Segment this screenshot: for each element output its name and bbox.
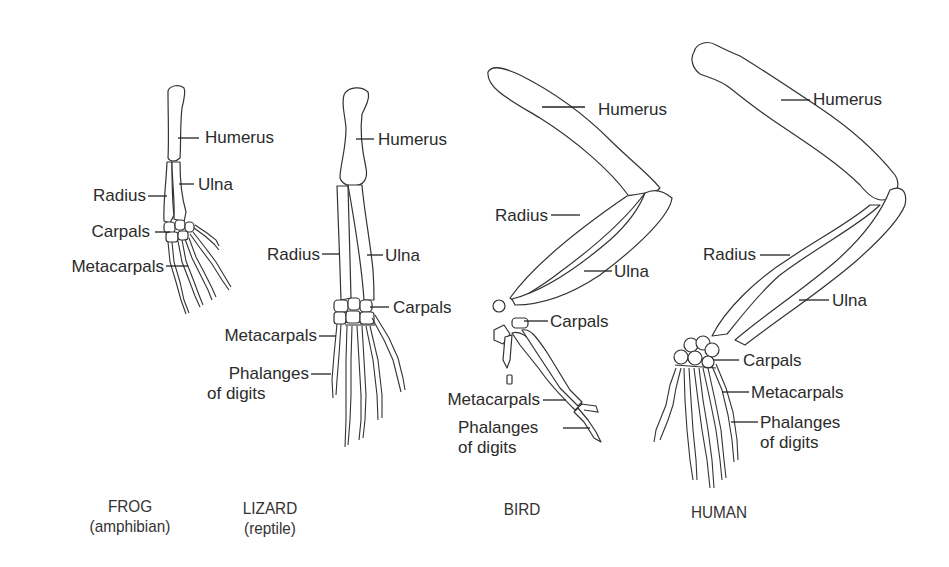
human-label-ulna: Ulna bbox=[832, 291, 867, 310]
bird-label-metacarpals: Metacarpals bbox=[410, 390, 540, 409]
lizard-label-carpals: Carpals bbox=[393, 298, 452, 317]
lizard-label-of-digits: of digits bbox=[207, 384, 266, 403]
frog-forelimb bbox=[148, 86, 231, 314]
human-label-carpals: Carpals bbox=[743, 351, 802, 370]
lizard-label-humerus: Humerus bbox=[378, 130, 447, 149]
caption-lizard-group: (reptile) bbox=[207, 519, 333, 539]
bird-humerus-bone bbox=[488, 68, 660, 196]
lizard-ulna-bone bbox=[348, 185, 374, 300]
frog-label-humerus: Humerus bbox=[205, 128, 274, 147]
lizard-label-metacarpals: Metacarpals bbox=[190, 326, 317, 345]
lizard-radius-bone bbox=[337, 186, 351, 300]
caption-frog-group: (amphibian) bbox=[67, 517, 193, 537]
caption-frog: FROG (amphibian) bbox=[67, 497, 193, 537]
frog-label-metacarpals: Metacarpals bbox=[40, 257, 164, 276]
frog-humerus-bone bbox=[168, 86, 185, 161]
bird-forelimb bbox=[488, 68, 672, 442]
human-label-radius: Radius bbox=[676, 245, 756, 264]
bird-label-humerus: Humerus bbox=[598, 100, 667, 119]
caption-lizard-name: LIZARD bbox=[207, 499, 333, 519]
caption-bird-name: BIRD bbox=[477, 500, 567, 520]
human-radius-bone bbox=[712, 205, 880, 336]
human-carpals bbox=[674, 336, 719, 368]
caption-human-name: HUMAN bbox=[661, 503, 778, 523]
human-label-metacarpals: Metacarpals bbox=[751, 383, 844, 402]
bird-carpals bbox=[512, 318, 528, 328]
caption-human: HUMAN bbox=[661, 503, 778, 523]
bird-carpal-circle bbox=[493, 300, 505, 312]
frog-label-radius: Radius bbox=[78, 186, 146, 205]
forelimb-diagram bbox=[0, 0, 949, 567]
human-label-phalanges: Phalanges bbox=[760, 413, 840, 432]
frog-label-ulna: Ulna bbox=[198, 175, 233, 194]
human-digits bbox=[654, 364, 738, 488]
lizard-label-phalanges: Phalanges bbox=[200, 364, 309, 383]
bird-label-of-digits: of digits bbox=[458, 438, 517, 457]
bird-label-carpals: Carpals bbox=[550, 312, 609, 331]
caption-frog-name: FROG bbox=[67, 497, 193, 517]
human-humerus-bone bbox=[692, 43, 898, 200]
caption-bird: BIRD bbox=[477, 500, 567, 520]
frog-ulna-bone bbox=[172, 162, 186, 222]
lizard-label-ulna: Ulna bbox=[385, 246, 420, 265]
lizard-digits bbox=[332, 315, 405, 447]
bird-label-ulna: Ulna bbox=[614, 262, 649, 281]
frog-label-carpals: Carpals bbox=[70, 222, 150, 241]
bird-label-radius: Radius bbox=[468, 206, 548, 225]
human-label-of-digits: of digits bbox=[760, 433, 819, 452]
lizard-humerus-bone bbox=[340, 88, 369, 186]
caption-lizard: LIZARD (reptile) bbox=[207, 499, 333, 539]
human-label-humerus: Humerus bbox=[813, 90, 882, 109]
lizard-label-radius: Radius bbox=[240, 245, 320, 264]
human-ulna-bone bbox=[735, 188, 906, 345]
bird-label-phalanges: Phalanges bbox=[458, 418, 538, 437]
lizard-carpals bbox=[334, 298, 375, 325]
